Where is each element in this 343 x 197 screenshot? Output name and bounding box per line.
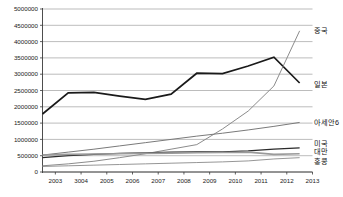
x-tick-label: 2003 [48, 177, 62, 184]
x-tick-label: 2008 [177, 177, 191, 184]
x-tick-label: 2010 [228, 177, 242, 184]
series-label: 아세안6 [314, 118, 339, 127]
series-lines [43, 31, 300, 167]
y-tick-label: 2500000 [14, 87, 39, 94]
y-tick-label: 500000 [17, 152, 38, 159]
y-tick-label: 3500000 [14, 54, 39, 61]
x-tick-label: 2007 [151, 177, 165, 184]
y-tick-label: 3000000 [14, 70, 39, 77]
series-label: 중국 [314, 26, 328, 35]
series-label: 홍콩 [314, 157, 328, 166]
y-tick-label: 1500000 [14, 119, 39, 126]
series-label: 일본 [314, 80, 328, 89]
x-tick-label: 3004 [74, 177, 88, 184]
y-tick-label: 2000000 [14, 103, 39, 110]
x-tick-label: 2013 [306, 177, 320, 184]
y-tick-label: 1000000 [14, 136, 39, 143]
series-line [43, 31, 300, 166]
line-chart: 5000000450000040000003500000300000025000… [0, 0, 343, 197]
chart-canvas: 5000000450000040000003500000300000025000… [0, 0, 343, 197]
series-label: 대만 [314, 147, 328, 156]
x-tick-label: 2011 [254, 177, 268, 184]
y-tick-label: 4000000 [14, 38, 39, 45]
x-tick-label: 2005 [100, 177, 114, 184]
series-line [43, 57, 300, 114]
x-tick-label: 2006 [126, 177, 140, 184]
y-tick-label: 5000000 [14, 5, 39, 12]
series-labels: 일본중국아세안6미국대만홍콩 [314, 26, 339, 165]
x-tick-label: 2009 [203, 177, 217, 184]
y-tick-label: 0 [35, 168, 39, 175]
x-tick-label: 2012 [280, 177, 294, 184]
series-line [43, 152, 300, 155]
y-tick-label: 4500000 [14, 22, 39, 29]
y-axis: 5000000450000040000003500000300000025000… [14, 5, 43, 175]
x-axis: 2003300420052006200720082009201020112012… [43, 172, 320, 184]
